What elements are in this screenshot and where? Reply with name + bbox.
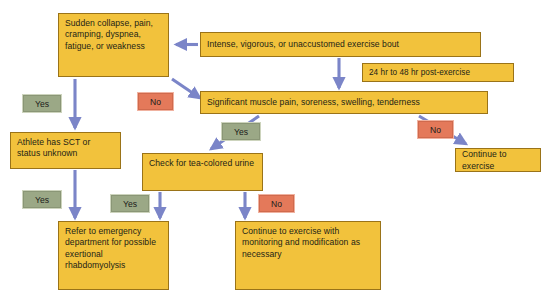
- badge-no-muscle-pain-right: No: [417, 120, 454, 139]
- node-athlete-sct: Athlete has SCT or status unknown: [10, 132, 121, 169]
- node-exercise-bout: Intense, vigorous, or unaccustomed exerc…: [200, 32, 481, 57]
- node-sudden-collapse: Sudden collapse, pain, cramping, dyspnea…: [58, 13, 169, 77]
- badge-yes-sct: Yes: [22, 94, 62, 113]
- flowchart-canvas: Sudden collapse, pain, cramping, dyspnea…: [0, 0, 546, 299]
- node-refer-emergency: Refer to emergency department for possib…: [58, 221, 169, 290]
- badge-yes-refer-left: Yes: [22, 190, 62, 209]
- badge-no-urine: No: [258, 194, 295, 213]
- node-post-exercise-window: 24 hr to 48 hr post-exercise: [362, 63, 514, 82]
- badge-no-muscle-pain-left: No: [137, 92, 174, 111]
- node-continue-monitoring: Continue to exercise with monitoring and…: [235, 221, 381, 290]
- arrow-collapse-to-muscle-pain: [172, 79, 200, 98]
- node-check-urine: Check for tea-colored urine: [142, 153, 263, 191]
- badge-yes-urine: Yes: [110, 194, 150, 213]
- badge-yes-muscle-pain: Yes: [221, 122, 261, 141]
- node-continue-exercise: Continue to exercise: [455, 148, 541, 172]
- node-significant-muscle-pain: Significant muscle pain, soreness, swell…: [200, 91, 488, 114]
